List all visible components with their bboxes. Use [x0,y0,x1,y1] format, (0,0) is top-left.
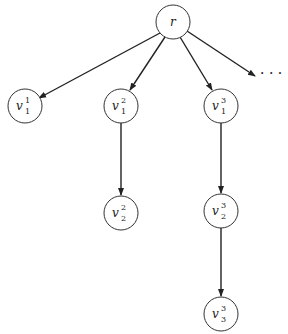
node-root: r [156,5,190,39]
node-v1-3: v 3 1 [204,89,238,123]
node-label-sub: 2 [121,214,126,223]
node-v3-3: v 3 3 [204,297,238,331]
node-label-sup: 2 [121,203,126,212]
node-label-base: v [212,204,219,218]
node-label-base: v [112,99,119,113]
edge-r-v1-1 [39,33,160,98]
node-label-base: v [112,206,119,220]
node-label-base: v [212,307,219,321]
node-label-sup: 3 [221,304,226,313]
node-label-base: v [16,99,23,113]
node-v2-2: v 2 2 [104,196,138,230]
node-v1-2: v 2 1 [104,89,138,123]
node-v1-1: v 1 1 [8,89,42,123]
ellipsis-more-children: · · · [260,65,282,81]
node-label-base: v [212,99,219,113]
node-label-sub: 2 [221,212,226,221]
node-label-sub: 1 [25,107,30,116]
node-v2-3: v 3 2 [204,194,238,228]
node-label-sup: 3 [221,201,226,210]
edge-r-v1-2 [130,37,165,90]
node-label-sup: 3 [221,96,226,105]
node-label-sup: 1 [25,96,30,105]
node-label-sup: 2 [121,96,126,105]
node-label-sub: 3 [221,315,226,324]
edge-r-ellipsis [187,31,255,76]
edges [39,31,255,296]
tree-diagram: r v 1 1 v 2 1 v 3 1 v 2 2 v 3 2 v 3 3 [0,0,288,334]
node-label-sub: 1 [121,107,126,116]
node-label-sub: 1 [221,107,226,116]
